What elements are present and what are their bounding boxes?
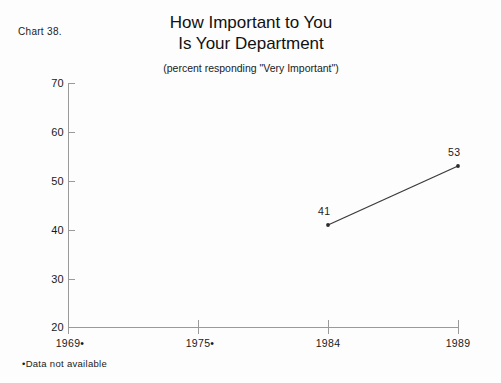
data-point-1984 [326,223,330,227]
chart-footnote: •Data not available [22,358,107,369]
x-axis-label-1984: 1984 [316,337,341,349]
x-axis-label-1975: 1975• [186,337,215,349]
y-axis-label-50: 50 [38,175,64,187]
chart-figure: Chart 38. How Important to You Is Your D… [0,0,501,383]
data-label-41: 41 [318,205,330,217]
plot-area [0,0,501,383]
y-axis-label-70: 70 [38,77,64,89]
y-axis-label-30: 30 [38,273,64,285]
y-axis-label-60: 60 [38,126,64,138]
data-point-1989 [456,164,460,168]
x-axis-label-1969: 1969• [56,337,85,349]
y-axis-label-40: 40 [38,224,64,236]
y-axis-label-20: 20 [38,321,64,333]
data-label-53: 53 [448,146,460,158]
x-axis-label-1989: 1989 [446,337,471,349]
series-line [328,166,458,225]
